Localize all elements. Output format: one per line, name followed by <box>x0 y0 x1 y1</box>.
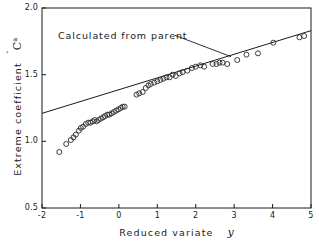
figure-extreme-coefficient: -2-10123450.51.01.52.0 Calculated from p… <box>0 0 319 248</box>
data-point-markers <box>57 34 307 155</box>
x-axis-ticks <box>42 204 311 208</box>
y-axis-title-text: Extreme coefficient <box>12 62 23 176</box>
x-tick-label: -2 <box>38 212 46 220</box>
data-point <box>302 34 307 39</box>
x-axis-title-symbol: y <box>213 226 233 239</box>
data-point <box>244 52 249 57</box>
annotation-calculated-from-parent: Calculated from parent <box>58 30 188 41</box>
data-point <box>255 51 260 56</box>
data-point <box>177 71 182 76</box>
y-axis-symbol-superscript: a <box>10 38 18 42</box>
x-tick-label: 4 <box>270 212 275 220</box>
x-tick-label: 3 <box>231 212 236 220</box>
y-axis-title-symbol: ̂Ca <box>11 38 24 62</box>
data-point <box>158 78 163 83</box>
data-point <box>155 79 160 84</box>
y-axis-symbol-base: C <box>11 42 24 50</box>
data-point <box>161 76 166 81</box>
data-point <box>57 150 62 155</box>
x-axis-title: Reduced variatey <box>42 226 311 239</box>
x-axis-title-text: Reduced variate <box>119 227 213 238</box>
y-axis-title: Extreme coefficient̂Ca <box>10 7 24 207</box>
data-point <box>225 62 230 67</box>
x-tick-label: 0 <box>116 212 121 220</box>
x-tick-label: 2 <box>193 212 198 220</box>
x-tick-label: 5 <box>308 212 313 220</box>
data-point <box>64 142 69 147</box>
data-point <box>235 58 240 63</box>
x-tick-label: 1 <box>155 212 160 220</box>
y-axis-ticks <box>42 8 46 208</box>
x-tick-label: -1 <box>76 212 84 220</box>
data-point <box>167 75 172 80</box>
